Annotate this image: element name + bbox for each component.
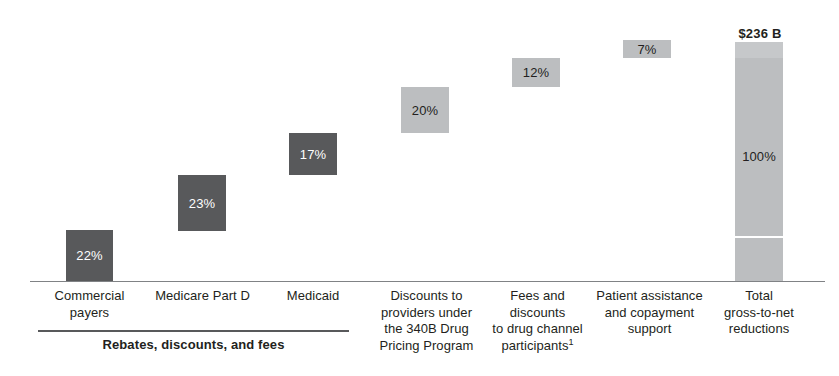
total-bar-divider	[735, 236, 783, 238]
bar-total-gross-to-net[interactable]: 100%	[735, 42, 783, 281]
bar-commercial-payers[interactable]: 22%	[66, 230, 113, 281]
label-line: to drug channel	[480, 321, 595, 338]
bar-value-label: 7%	[638, 43, 657, 56]
bar-patient-assistance[interactable]: 7%	[623, 40, 671, 58]
category-label-340b-discounts: Discounts to providers under the 340B Dr…	[369, 288, 484, 354]
footnote-marker: 1	[569, 336, 574, 346]
bar-340b-discounts[interactable]: 20%	[401, 87, 449, 133]
category-label-patient-assistance: Patient assistance and copayment support	[586, 288, 713, 338]
category-label-total: Total gross-to-net reductions	[705, 288, 813, 338]
label-line: gross-to-net	[705, 305, 813, 322]
label-line: Medicaid	[258, 288, 368, 305]
bar-medicaid[interactable]: 17%	[289, 133, 337, 175]
label-line: Total	[705, 288, 813, 305]
group-bracket-label: Rebates, discounts, and fees	[38, 337, 349, 352]
bar-value-label: 100%	[742, 150, 776, 163]
total-bar-top-segment	[735, 42, 783, 58]
bar-value-label: 12%	[523, 66, 549, 79]
label-line: Medicare Part D	[145, 288, 260, 305]
label-line: discounts	[480, 305, 595, 322]
category-label-drug-channel-fees: Fees and discounts to drug channel parti…	[480, 288, 595, 354]
label-line: Pricing Program	[369, 338, 484, 355]
category-label-medicare-part-d: Medicare Part D	[145, 288, 260, 305]
label-line: payers	[32, 305, 147, 322]
label-line-with-footnote: participants1	[480, 338, 595, 355]
label-line: the 340B Drug	[369, 321, 484, 338]
label-line: Fees and	[480, 288, 595, 305]
bar-value-label: 20%	[412, 104, 438, 117]
label-line: Discounts to	[369, 288, 484, 305]
label-line: and copayment	[586, 305, 713, 322]
label-line: support	[586, 321, 713, 338]
bar-value-label: 22%	[76, 249, 102, 262]
label-line: Patient assistance	[586, 288, 713, 305]
group-bracket-line	[38, 330, 349, 332]
label-line: Commercial	[32, 288, 147, 305]
category-label-medicaid: Medicaid	[258, 288, 368, 305]
bar-medicare-part-d[interactable]: 23%	[178, 175, 226, 231]
total-value-label: $236 B	[710, 26, 810, 41]
bar-drug-channel-fees[interactable]: 12%	[512, 58, 560, 87]
label-line: providers under	[369, 305, 484, 322]
plot-area: 22% 23% 17% 20% 12% 7% $236 B 100%	[0, 0, 839, 282]
category-label-commercial-payers: Commercial payers	[32, 288, 147, 321]
bar-value-label: 17%	[300, 148, 326, 161]
label-line: reductions	[705, 321, 813, 338]
axis-baseline	[30, 281, 825, 282]
waterfall-chart: 22% 23% 17% 20% 12% 7% $236 B 100%	[0, 0, 839, 376]
label-line: participants	[501, 338, 568, 353]
bar-value-label: 23%	[189, 197, 215, 210]
